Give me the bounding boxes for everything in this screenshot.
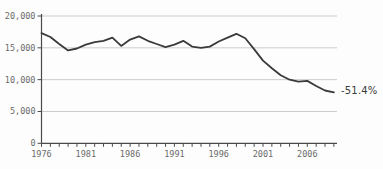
- x-tick-label: 2001: [253, 149, 273, 159]
- y-tick-label: 5,000: [10, 106, 36, 116]
- x-tick-label: 1976: [31, 149, 51, 159]
- y-tick-label: 15,000: [5, 43, 36, 53]
- x-tick-label: 1981: [76, 149, 96, 159]
- x-tick-label: 1996: [208, 149, 228, 159]
- line-end-annotation: -51.4%: [341, 85, 378, 96]
- chart-canvas: 05,00010,00015,00020,0001976198119861991…: [0, 0, 383, 169]
- line-chart: 05,00010,00015,00020,0001976198119861991…: [0, 0, 383, 169]
- y-tick-label: 10,000: [5, 75, 36, 85]
- x-tick-label: 1986: [120, 149, 140, 159]
- y-tick-label: 20,000: [5, 11, 36, 21]
- y-tick-label: 0: [30, 138, 35, 148]
- x-tick-label: 1991: [164, 149, 184, 159]
- data-line-series: [42, 33, 334, 92]
- x-tick-label: 2006: [297, 149, 317, 159]
